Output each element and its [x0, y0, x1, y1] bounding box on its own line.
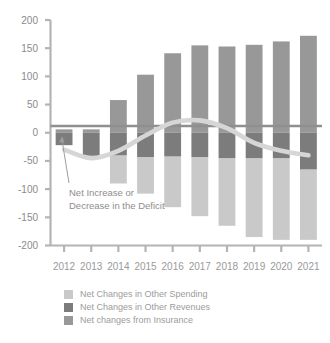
y-tick-label: 50 [27, 99, 39, 110]
legend-label: Net changes from Insurance [80, 315, 193, 325]
x-tick-label: 2012 [53, 261, 76, 272]
y-tick-label: -150 [18, 212, 38, 223]
y-tick-label: 0 [32, 127, 38, 138]
y-tick-label: -50 [24, 155, 39, 166]
bar-other-revenues [83, 133, 100, 158]
bar-insurance [110, 100, 127, 133]
y-tick-label: -100 [18, 184, 38, 195]
legend-swatch [64, 290, 73, 299]
y-axis-tick-labels: 200150100500-50-100-150-200 [18, 15, 38, 252]
x-tick-label: 2021 [297, 261, 320, 272]
bar-other-spending [191, 157, 208, 216]
legend-item[interactable]: Net Changes in Other Spending [64, 289, 210, 299]
x-tick-label: 2015 [134, 261, 157, 272]
bars-other-spending [110, 155, 317, 240]
x-tick-label: 2014 [107, 261, 130, 272]
x-tick-label: 2020 [270, 261, 293, 272]
bar-other-revenues [300, 133, 317, 170]
bar-insurance [137, 75, 154, 133]
bar-other-spending [246, 158, 263, 237]
chart-legend: Net Changes in Other SpendingNet Changes… [64, 289, 210, 325]
bar-other-spending [164, 156, 181, 207]
bar-other-revenues [164, 133, 181, 157]
bar-other-revenues [56, 133, 73, 145]
x-tick-label: 2016 [162, 261, 185, 272]
legend-label: Net Changes in Other Spending [80, 289, 208, 299]
x-tick-label: 2019 [243, 261, 266, 272]
bar-insurance [246, 45, 263, 133]
bar-other-spending [273, 158, 290, 240]
legend-item[interactable]: Net Changes in Other Revenues [64, 302, 210, 312]
bar-insurance [219, 46, 236, 132]
bar-other-revenues [273, 133, 290, 158]
y-tick-label: -200 [18, 240, 38, 251]
bar-other-spending [110, 155, 127, 183]
y-tick-label: 200 [21, 15, 38, 26]
bar-other-spending [300, 169, 317, 239]
bar-insurance [56, 129, 73, 132]
legend-label: Net Changes in Other Revenues [80, 302, 210, 312]
legend-item[interactable]: Net changes from Insurance [64, 315, 210, 325]
x-tick-label: 2018 [216, 261, 239, 272]
bar-insurance [83, 129, 100, 132]
legend-swatch [64, 303, 73, 312]
callout-text-line2: Decrease in the Deficit [69, 200, 165, 211]
y-tick-label: 150 [21, 43, 38, 54]
bar-other-spending [137, 157, 154, 194]
bar-insurance [273, 41, 290, 132]
bar-other-revenues [191, 133, 208, 157]
bar-other-spending [219, 158, 236, 226]
x-tick-label: 2017 [189, 261, 212, 272]
x-tick-label: 2013 [80, 261, 103, 272]
legend-swatch [64, 316, 73, 325]
y-tick-label: 100 [21, 71, 38, 82]
bar-other-revenues [219, 133, 236, 158]
callout-text-line1: Net Increase or [69, 187, 134, 198]
x-axis-tick-labels: 2012201320142015201620172018201920202021 [53, 261, 320, 272]
bar-insurance [300, 36, 317, 133]
deficit-stacked-bar-chart: 200150100500-50-100-150-200 Net Increase… [0, 0, 330, 343]
